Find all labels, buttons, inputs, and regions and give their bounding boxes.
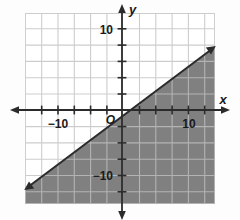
plot-svg: −10 10 10 −10 y x O	[0, 0, 240, 220]
y-axis-label: y	[128, 2, 137, 17]
y-tick-label-10: 10	[100, 23, 114, 37]
origin-label: O	[106, 113, 116, 127]
x-tick-label-10: 10	[182, 117, 196, 131]
x-tick-label-neg10: −10	[48, 117, 69, 131]
x-axis-label: x	[218, 92, 227, 107]
coordinate-graph-figure: −10 10 10 −10 y x O	[0, 0, 240, 220]
y-tick-label-neg10: −10	[93, 169, 114, 183]
